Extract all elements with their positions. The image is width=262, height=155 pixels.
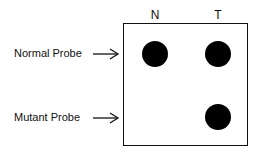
column-label-t: T [208, 8, 228, 22]
row-label-normal-probe: Normal Probe [14, 47, 82, 59]
dot-normal-t [205, 41, 231, 67]
dot-mutant-t [205, 104, 231, 130]
blot-membrane [123, 23, 248, 146]
arrow-right-icon [92, 48, 120, 60]
arrow-right-icon [92, 112, 120, 124]
row-label-mutant-probe: Mutant Probe [14, 111, 80, 123]
dot-normal-n [142, 41, 168, 67]
column-label-n: N [145, 8, 165, 22]
